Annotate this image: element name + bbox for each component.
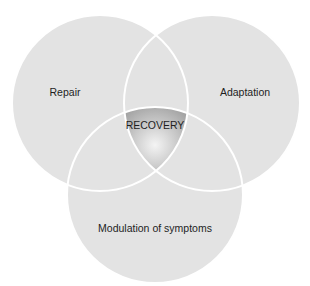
label-repair: Repair — [50, 86, 81, 98]
venn-diagram — [0, 0, 310, 286]
label-adaptation: Adaptation — [220, 86, 270, 98]
label-modulation: Modulation of symptoms — [98, 222, 212, 234]
label-recovery: RECOVERY — [126, 119, 185, 131]
